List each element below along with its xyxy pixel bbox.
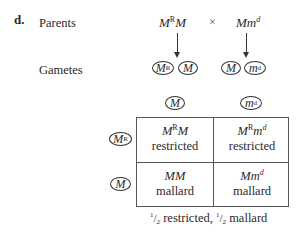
gamete-oval: MR bbox=[152, 61, 174, 75]
phenotype-label: restricted bbox=[152, 139, 199, 153]
row-header-gamete: MR bbox=[109, 132, 132, 146]
parent1-genotype: MRM bbox=[159, 15, 186, 31]
phenotype-label: mallard bbox=[233, 184, 271, 198]
column-header-gamete: M bbox=[165, 96, 185, 110]
punnett-cell: MM mallard bbox=[137, 163, 213, 207]
column-header-gamete: md bbox=[240, 96, 262, 110]
punnett-cell: MRmd restricted bbox=[214, 118, 290, 162]
punnett-square: MRM restricted MRmd restricted MM mallar… bbox=[136, 117, 289, 207]
phenotype-ratio-summary: 1/2 restricted, 1/2 mallard bbox=[150, 211, 267, 226]
parents-label: Parents bbox=[39, 16, 76, 31]
cross-symbol: × bbox=[209, 15, 216, 30]
row-header-gamete: M bbox=[110, 177, 131, 191]
parent2-genotype: Mmd bbox=[236, 15, 260, 31]
punnett-cell: MRM restricted bbox=[137, 118, 213, 162]
gamete-oval: md bbox=[244, 61, 266, 75]
phenotype-label: mallard bbox=[156, 184, 194, 198]
part-label: d. bbox=[14, 12, 24, 28]
gamete-oval: M bbox=[178, 61, 198, 75]
phenotype-label: restricted bbox=[229, 139, 276, 153]
gamete-oval: M bbox=[221, 61, 241, 75]
punnett-cell: Mmd mallard bbox=[214, 163, 290, 207]
gametes-label: Gametes bbox=[39, 63, 83, 78]
